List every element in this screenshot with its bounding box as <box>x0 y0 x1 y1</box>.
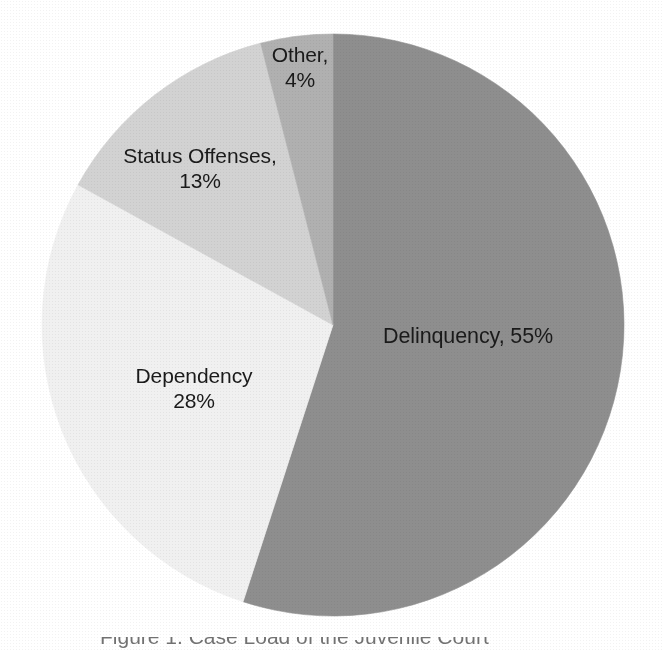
pie-chart-graphic <box>0 0 663 650</box>
pie-label-dependency-line2: 28% <box>106 388 282 413</box>
pie-label-other: Other, 4% <box>244 42 356 92</box>
figure-caption-text: Figure 1. Case Load of the Juvenile Cour… <box>100 637 489 649</box>
pie-label-other-line2: 4% <box>244 67 356 92</box>
pie-label-dependency: Dependency 28% <box>106 363 282 413</box>
pie-label-delinquency-line1: Delinquency, 55% <box>383 324 553 349</box>
pie-chart-figure: Delinquency, 55% Dependency 28% Status O… <box>0 0 663 650</box>
pie-label-dependency-line1: Dependency <box>106 363 282 388</box>
pie-label-status-offenses-line2: 13% <box>96 168 304 193</box>
pie-label-status-offenses: Status Offenses, 13% <box>96 143 304 193</box>
pie-label-other-line1: Other, <box>244 42 356 67</box>
pie-label-delinquency: Delinquency, 55% <box>383 324 553 349</box>
figure-caption-cropped: Figure 1. Case Load of the Juvenile Cour… <box>0 637 663 650</box>
pie-label-status-offenses-line1: Status Offenses, <box>96 143 304 168</box>
